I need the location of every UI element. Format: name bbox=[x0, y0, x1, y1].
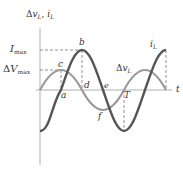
point-a-label: a bbox=[61, 91, 66, 100]
point-T-label: T bbox=[124, 91, 130, 100]
t-axis-label: t bbox=[176, 85, 180, 94]
y-axis-label: ΔvL, iL bbox=[26, 10, 54, 20]
point-c-label: c bbox=[58, 60, 63, 69]
dvL-sub: L bbox=[128, 67, 132, 74]
imax-label: Imax bbox=[10, 44, 27, 55]
iL-sub: L bbox=[153, 43, 157, 50]
dvmax-sub: max bbox=[17, 68, 30, 75]
point-d-label: d bbox=[84, 81, 90, 90]
point-f-label: f bbox=[98, 112, 101, 121]
dvmax-label: ΔVmax bbox=[3, 64, 30, 75]
point-e-label: e bbox=[104, 82, 109, 90]
point-b-label: b bbox=[79, 38, 85, 47]
imax-sub: max bbox=[14, 48, 27, 55]
current-curve-label: iL bbox=[150, 40, 157, 50]
inductor-waveform-diagram bbox=[0, 0, 183, 173]
voltage-curve-label: ΔvL bbox=[116, 64, 132, 74]
i-subscript: L bbox=[50, 13, 54, 20]
